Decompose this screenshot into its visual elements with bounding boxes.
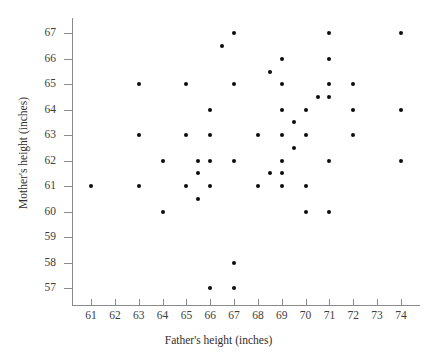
x-axis-tick: [306, 299, 307, 306]
data-point: [137, 184, 141, 188]
y-axis-tick-label: 57: [30, 282, 56, 294]
x-axis-tick: [234, 299, 235, 306]
data-point: [351, 82, 355, 86]
data-point: [208, 286, 212, 290]
scatter-plot-figure: 5758596061626364656667 61626364656667686…: [0, 0, 437, 361]
data-point: [208, 133, 212, 137]
x-axis-tick: [329, 299, 330, 306]
data-point: [280, 171, 284, 175]
data-point: [304, 184, 308, 188]
y-axis-tick-label: 67: [30, 27, 56, 39]
data-point: [316, 95, 320, 99]
x-axis-tick: [115, 299, 116, 306]
x-axis-tick: [282, 299, 283, 306]
data-point: [280, 133, 284, 137]
x-axis-tick: [163, 299, 164, 306]
data-point: [196, 197, 200, 201]
data-point: [256, 133, 260, 137]
data-point: [184, 82, 188, 86]
data-point: [304, 108, 308, 112]
data-point: [232, 261, 236, 265]
data-point: [256, 184, 260, 188]
x-axis-title: Father's height (inches): [0, 334, 437, 346]
x-axis-tick: [377, 299, 378, 306]
x-axis-line: [72, 305, 420, 306]
data-point: [304, 133, 308, 137]
data-point: [327, 31, 331, 35]
data-point: [268, 70, 272, 74]
data-point: [184, 184, 188, 188]
y-axis-tick-label: 65: [30, 78, 56, 90]
y-axis-tick: [64, 59, 72, 60]
data-point: [208, 159, 212, 163]
data-point: [280, 159, 284, 163]
y-axis-tick: [64, 33, 72, 34]
data-point: [327, 159, 331, 163]
x-axis-tick: [210, 299, 211, 306]
data-point: [280, 108, 284, 112]
data-point: [280, 57, 284, 61]
y-axis-tick: [64, 288, 72, 289]
data-point: [327, 82, 331, 86]
x-axis-tick: [401, 299, 402, 306]
x-axis-tick: [353, 299, 354, 306]
data-point: [232, 82, 236, 86]
y-axis-tick: [64, 237, 72, 238]
y-axis-tick-label: 58: [30, 257, 56, 269]
y-axis-tick-label: 66: [30, 53, 56, 65]
data-point: [161, 210, 165, 214]
y-axis-tick-label: 64: [30, 104, 56, 116]
data-point: [184, 133, 188, 137]
x-axis-tick: [139, 299, 140, 306]
data-point: [137, 82, 141, 86]
y-axis-tick: [64, 186, 72, 187]
data-point: [268, 171, 272, 175]
data-point: [196, 171, 200, 175]
y-axis-tick-label: 62: [30, 155, 56, 167]
data-point: [327, 210, 331, 214]
data-point: [161, 159, 165, 163]
data-point: [137, 133, 141, 137]
x-axis-tick: [258, 299, 259, 306]
data-point: [292, 146, 296, 150]
y-axis-tick-label: 60: [30, 206, 56, 218]
y-axis-tick: [64, 263, 72, 264]
y-axis-tick: [64, 110, 72, 111]
data-point: [232, 31, 236, 35]
data-point: [196, 159, 200, 163]
data-point: [208, 108, 212, 112]
y-axis-tick: [64, 84, 72, 85]
data-point: [208, 184, 212, 188]
y-axis-title: Mother's height (inches): [17, 78, 29, 228]
data-point: [399, 159, 403, 163]
data-point: [351, 108, 355, 112]
data-point: [327, 95, 331, 99]
data-point: [232, 159, 236, 163]
y-axis-tick: [64, 161, 72, 162]
data-point: [304, 210, 308, 214]
y-axis-tick-label: 59: [30, 231, 56, 243]
data-point: [280, 82, 284, 86]
x-axis-tick: [91, 299, 92, 306]
y-axis-tick-label: 61: [30, 180, 56, 192]
y-axis-tick-label: 63: [30, 129, 56, 141]
data-point: [292, 120, 296, 124]
data-point: [220, 44, 224, 48]
y-axis-tick: [64, 135, 72, 136]
x-axis-tick: [186, 299, 187, 306]
data-point: [232, 286, 236, 290]
y-axis-tick: [64, 212, 72, 213]
data-point: [327, 57, 331, 61]
data-point: [351, 133, 355, 137]
data-point: [89, 184, 93, 188]
data-point: [280, 184, 284, 188]
y-axis-line: [72, 18, 73, 306]
data-point: [399, 31, 403, 35]
data-point: [399, 108, 403, 112]
x-axis-tick-label: 74: [386, 310, 416, 322]
